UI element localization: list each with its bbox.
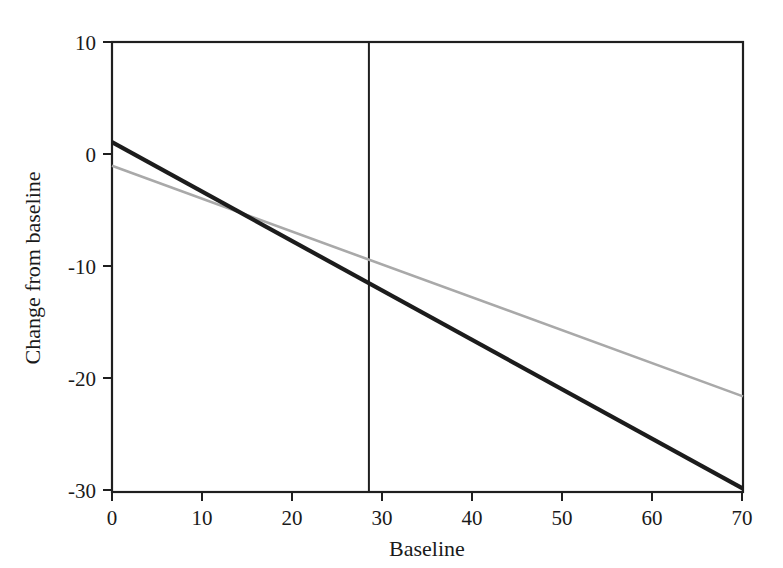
y-tick-label-neg10: -10 xyxy=(68,255,96,279)
x-tick-label-0: 0 xyxy=(107,506,118,530)
y-axis-title: Change from baseline xyxy=(20,171,45,364)
x-tick-label-20: 20 xyxy=(282,506,303,530)
chart-figure: 10 0 -10 -20 -30 0 10 20 30 40 50 60 70 … xyxy=(0,0,783,568)
x-axis-title: Baseline xyxy=(389,536,465,561)
figure-background xyxy=(0,0,783,568)
x-tick-label-70: 70 xyxy=(732,506,753,530)
y-tick-label-neg20: -20 xyxy=(68,367,96,391)
x-tick-label-30: 30 xyxy=(372,506,393,530)
y-tick-label-neg30: -30 xyxy=(68,479,96,503)
x-tick-label-10: 10 xyxy=(192,506,213,530)
chart-canvas: 10 0 -10 -20 -30 0 10 20 30 40 50 60 70 … xyxy=(0,0,783,568)
x-tick-label-60: 60 xyxy=(642,506,663,530)
x-tick-label-40: 40 xyxy=(462,506,483,530)
x-tick-label-50: 50 xyxy=(552,506,573,530)
y-tick-label-0: 0 xyxy=(86,143,97,167)
y-tick-label-10: 10 xyxy=(75,31,96,55)
